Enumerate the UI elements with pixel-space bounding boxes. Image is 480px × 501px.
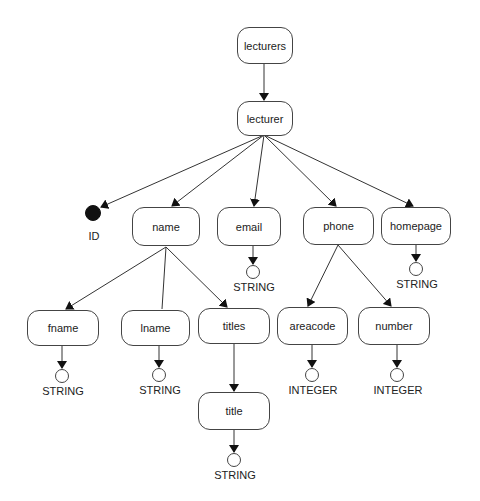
title-type-circle-icon [227, 453, 241, 467]
lname-type-label: STRING [139, 384, 181, 396]
node-label: homepage [390, 220, 442, 232]
edge-lecturer-id [101, 135, 264, 207]
node-label: number [375, 320, 412, 332]
node-label: areacode [290, 320, 336, 332]
node-label: email [236, 221, 262, 233]
node-label: titles [223, 320, 246, 332]
fname-type-label: STRING [42, 385, 84, 397]
homepage-type-circle-icon [409, 262, 423, 276]
homepage-type-label: STRING [396, 278, 438, 290]
node-lecturer: lecturer [237, 101, 293, 136]
node-label: fname [48, 322, 79, 334]
number-type-circle-icon [390, 368, 404, 382]
title-type-label: STRING [214, 469, 256, 481]
edge-lecturer-phone [264, 135, 336, 206]
node-label: lname [141, 322, 171, 334]
node-fname: fname [27, 310, 99, 346]
edge-name-lname [162, 247, 166, 309]
edge-phone-areacode [308, 245, 338, 306]
lname-type-circle-icon [152, 368, 166, 382]
node-phone: phone [303, 207, 374, 245]
node-areacode: areacode [277, 307, 348, 345]
edge-name-fname [66, 247, 166, 309]
node-name: name [132, 207, 200, 246]
node-label: title [225, 405, 242, 417]
node-title: title [198, 392, 270, 430]
node-titles: titles [198, 308, 270, 344]
edge-lecturer-name [172, 135, 264, 206]
node-label: phone [323, 220, 354, 232]
edge-lecturer-homepage [264, 135, 413, 206]
areacode-type-circle-icon [305, 368, 319, 382]
id-label: ID [89, 230, 100, 242]
node-email: email [217, 207, 281, 246]
areacode-type-label: INTEGER [289, 384, 338, 396]
email-type-label: STRING [233, 281, 275, 293]
email-type-circle-icon [246, 265, 260, 279]
node-label: lecturers [244, 40, 286, 52]
node-number: number [358, 307, 430, 345]
node-lecturers: lecturers [237, 27, 293, 64]
edge-name-titles [166, 247, 227, 307]
fname-type-circle-icon [55, 369, 69, 383]
number-type-label: INTEGER [374, 384, 423, 396]
edge-phone-number [338, 245, 391, 306]
node-homepage: homepage [381, 207, 451, 245]
edge-lecturer-email [254, 135, 264, 206]
node-lname: lname [121, 310, 190, 346]
id-attribute-icon [85, 205, 101, 221]
node-label: name [152, 221, 180, 233]
node-label: lecturer [247, 113, 284, 125]
